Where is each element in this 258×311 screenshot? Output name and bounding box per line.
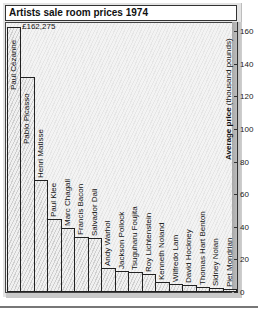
bar bbox=[223, 289, 237, 292]
bar-label: Andy Warhol bbox=[103, 220, 113, 266]
y-tick-label: 0 bbox=[240, 288, 244, 297]
y-tick-label: 140 bbox=[240, 59, 253, 68]
y-tick-mark bbox=[234, 96, 238, 97]
y-tick-mark bbox=[234, 129, 238, 130]
y-tick-mark bbox=[234, 227, 238, 228]
bar bbox=[61, 228, 75, 292]
bar-label: Francis Bacon bbox=[76, 183, 86, 234]
bar-label: Roy Lichtenstein bbox=[144, 213, 154, 272]
y-tick-label: 40 bbox=[240, 222, 249, 231]
bar bbox=[101, 268, 115, 292]
bar-label: Tsuguharu Foujita bbox=[130, 207, 140, 271]
bar bbox=[196, 287, 210, 292]
y-tick-label: 60 bbox=[240, 190, 249, 199]
bar bbox=[47, 219, 61, 292]
bar-label: Sidney Nolan bbox=[211, 238, 221, 286]
bar-label: Paul Klee bbox=[49, 182, 59, 216]
bar bbox=[155, 282, 169, 292]
y-tick-label: 100 bbox=[240, 125, 253, 134]
bar bbox=[182, 285, 196, 292]
bar-label: David Hockney bbox=[184, 230, 194, 284]
y-tick-mark bbox=[234, 292, 238, 293]
bar-label: Salvador Dali bbox=[90, 189, 100, 237]
bar bbox=[115, 271, 129, 292]
bar bbox=[128, 272, 142, 292]
chart-shadow bbox=[6, 293, 242, 298]
bar-label: Henri Matisse bbox=[36, 129, 46, 178]
bar-label: Kenneth Noland bbox=[157, 223, 167, 280]
bar-label: Pablo Picasso bbox=[22, 93, 32, 144]
y-tick-mark bbox=[234, 194, 238, 195]
y-tick-mark bbox=[234, 31, 238, 32]
y-axis-label-bold: Average price bbox=[224, 107, 233, 160]
y-tick-mark bbox=[234, 162, 238, 163]
bar bbox=[142, 274, 156, 292]
bar bbox=[169, 284, 183, 292]
chart-title: Artists sale room prices 1974 bbox=[5, 5, 237, 21]
max-value-annotation: £162,275 bbox=[22, 22, 55, 31]
bar-label: Paul Cézanne bbox=[9, 39, 19, 89]
bar-label: Jackson Pollock bbox=[117, 211, 127, 268]
bar-label: Marc Chagall bbox=[63, 179, 73, 226]
y-tick-label: 20 bbox=[240, 255, 249, 264]
bar-label: Wilfredo Lam bbox=[171, 235, 181, 282]
bar bbox=[209, 288, 223, 292]
y-tick-label: 80 bbox=[240, 157, 249, 166]
bar bbox=[88, 238, 102, 292]
bar-label: Thomas Hart Benton bbox=[198, 211, 208, 285]
page-rule bbox=[0, 306, 258, 308]
y-tick-mark bbox=[234, 64, 238, 65]
y-axis-label-unit: (thousand pounds) bbox=[224, 38, 233, 107]
y-axis-line bbox=[237, 22, 238, 293]
bar bbox=[74, 237, 88, 292]
bar-label: Piet Mondrian bbox=[225, 237, 235, 286]
y-axis-label: Average price (thousand pounds) bbox=[224, 38, 233, 160]
y-tick-label: 160 bbox=[240, 27, 253, 36]
bar bbox=[34, 180, 48, 292]
y-tick-label: 120 bbox=[240, 92, 253, 101]
